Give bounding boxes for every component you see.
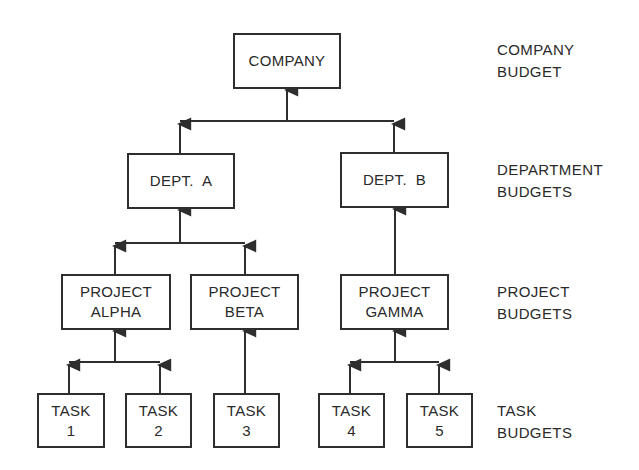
node-task-3: TASK 3 [213,393,280,448]
node-company: COMPANY [233,33,341,89]
level-label-project: PROJECT BUDGETS [497,281,572,325]
level-label-line1: TASK [497,400,572,422]
node-label-line1: TASK [227,401,266,421]
node-label-line2: 2 [154,421,163,441]
node-task-4: TASK 4 [318,393,385,448]
level-label-line1: DEPARTMENT [497,159,603,181]
node-label-line1: PROJECT [80,282,152,302]
level-label-company: COMPANY BUDGET [497,39,575,83]
node-dept-a: DEPT. A [127,153,235,209]
node-label-line1: TASK [332,401,371,421]
node-label: DEPT. A [150,171,212,191]
node-label-line1: TASK [139,401,178,421]
node-label: COMPANY [249,51,326,71]
level-label-task: TASK BUDGETS [497,400,572,444]
node-label-line2: BETA [225,302,264,322]
node-label-line1: PROJECT [358,282,430,302]
level-label-department: DEPARTMENT BUDGETS [497,159,603,203]
node-label-line1: PROJECT [208,282,280,302]
node-label-line2: 1 [67,421,76,441]
node-project-alpha: PROJECT ALPHA [61,274,171,330]
level-label-line2: BUDGET [497,61,575,83]
node-dept-b: DEPT. B [340,152,449,208]
node-label-line2: 4 [347,421,356,441]
level-label-line2: BUDGETS [497,422,572,444]
node-label: DEPT. B [363,170,426,190]
level-label-line1: COMPANY [497,39,575,61]
node-task-2: TASK 2 [125,393,192,448]
node-label-line2: 5 [435,421,444,441]
level-label-line1: PROJECT [497,281,572,303]
node-task-5: TASK 5 [406,393,473,448]
level-label-line2: BUDGETS [497,303,572,325]
node-label-line1: TASK [420,401,459,421]
node-label-line2: 3 [242,421,251,441]
level-label-line2: BUDGETS [497,181,603,203]
node-label-line1: TASK [51,401,90,421]
node-project-gamma: PROJECT GAMMA [340,274,449,330]
node-label-line2: ALPHA [91,302,142,322]
node-project-beta: PROJECT BETA [190,274,299,330]
node-label-line2: GAMMA [365,302,423,322]
node-task-1: TASK 1 [37,393,105,448]
